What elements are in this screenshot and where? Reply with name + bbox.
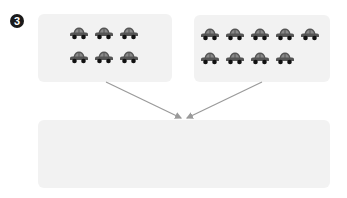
left-car-grid [69, 26, 139, 64]
car-row [200, 51, 320, 65]
car-icon [94, 26, 114, 40]
car-icon [69, 50, 89, 64]
car-icon [69, 26, 89, 40]
car-icon [250, 51, 270, 65]
car-icon [119, 50, 139, 64]
car-icon [250, 27, 270, 41]
car-icon [275, 27, 295, 41]
problem-number-badge: 3 [10, 14, 24, 28]
car-icon [225, 27, 245, 41]
car-row [200, 27, 320, 41]
car-icon [119, 26, 139, 40]
left-car-group-box [38, 14, 172, 82]
car-icon [275, 51, 295, 65]
car-icon [94, 50, 114, 64]
car-icon [225, 51, 245, 65]
left-arrow [106, 82, 181, 118]
answer-box[interactable] [38, 120, 330, 188]
car-icon [200, 27, 220, 41]
right-arrow [187, 82, 262, 118]
car-icon [300, 27, 320, 41]
right-car-grid [200, 27, 320, 65]
car-row [69, 26, 139, 40]
right-car-group-box [194, 15, 330, 82]
car-icon [200, 51, 220, 65]
car-row [69, 50, 139, 64]
